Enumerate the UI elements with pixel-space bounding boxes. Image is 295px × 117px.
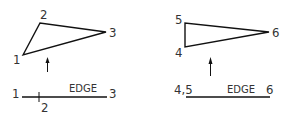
vertex-4-label: 4 xyxy=(175,45,182,60)
view-direction-arrow-icon xyxy=(209,57,213,76)
left-triangle xyxy=(23,23,106,55)
edge-below-label: 2 xyxy=(41,100,48,115)
vertex-1-label: 1 xyxy=(13,52,20,67)
right-triangle xyxy=(185,23,269,47)
edge-right-label: 6 xyxy=(266,82,273,97)
edge-left-label: 1 xyxy=(12,86,19,101)
edge-title: EDGE xyxy=(69,83,97,94)
vertex-2-label: 2 xyxy=(40,7,47,22)
edge-view-diagram: 1 2 3 1 3 2 EDGE 4 5 6 4,5 6 EDGE xyxy=(0,0,295,117)
right-edge-view: 4,5 6 EDGE xyxy=(174,82,273,97)
vertex-3-label: 3 xyxy=(109,25,116,40)
edge-right-label: 3 xyxy=(109,86,116,101)
vertex-5-label: 5 xyxy=(175,12,182,27)
view-direction-arrow-icon xyxy=(46,57,50,72)
left-figure: 1 2 3 1 3 2 EDGE xyxy=(12,7,116,115)
vertex-6-label: 6 xyxy=(272,25,279,40)
right-figure: 4 5 6 4,5 6 EDGE xyxy=(174,12,279,97)
edge-title: EDGE xyxy=(227,84,255,95)
left-edge-view: 1 3 2 EDGE xyxy=(12,83,116,115)
edge-left-label: 4,5 xyxy=(174,82,193,97)
